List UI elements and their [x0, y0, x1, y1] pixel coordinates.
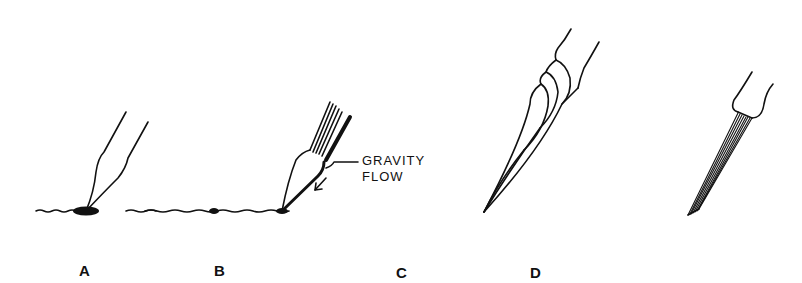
- callout-leader: [326, 162, 358, 168]
- brush-strand-mid: [484, 128, 540, 212]
- panel-label-b: B: [214, 263, 225, 278]
- panel-b-pen-drawing: [145, 102, 358, 212]
- ferrule-band-3: [524, 84, 548, 150]
- callout-line-2: FLOW: [362, 169, 425, 185]
- panel-label-c: C: [396, 265, 407, 280]
- callout-line-1: GRAVITY: [362, 153, 425, 169]
- pen-outline-left: [86, 112, 126, 211]
- ink-blob-a: [73, 207, 99, 216]
- panel-label-d: D: [530, 265, 541, 280]
- diagram-canvas: GRAVITY FLOW A B C D: [0, 0, 802, 283]
- panel-label-a: A: [79, 263, 90, 278]
- brush-outline-left: [484, 60, 556, 212]
- panel-c-brush-drawing: [484, 29, 599, 212]
- pen-outline-right: [86, 122, 148, 211]
- handle-right: [578, 42, 599, 88]
- brush-outline-right: [484, 88, 578, 212]
- handle-left: [555, 29, 571, 60]
- bristle-bundle-d: [688, 113, 752, 215]
- gravity-flow-callout: GRAVITY FLOW: [362, 153, 425, 185]
- panel-a-pen-drawing: [36, 112, 156, 212]
- ink-dot-b-mid: [209, 208, 219, 214]
- panel-d-brush-drawing: [688, 72, 773, 215]
- surface-line-left: [36, 210, 76, 212]
- handle-d-left: [733, 72, 752, 112]
- diagram-illustration: [0, 0, 802, 283]
- handle-d-right: [752, 84, 773, 118]
- ink-dot-b-tip: [276, 208, 288, 214]
- nib-left: [282, 150, 310, 211]
